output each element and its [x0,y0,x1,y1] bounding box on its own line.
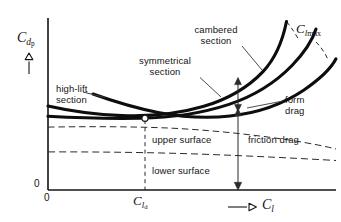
y-axis-origin-label: 0 [34,178,40,189]
cambered-section-label: cambered section [186,24,246,46]
symmetrical-label-line1: symmetrical [139,55,191,66]
x-axis-tick-label-cl-design: Cld [133,193,148,209]
lower-surface-curve [48,152,336,161]
profile-drag-diagram: Cdp 0 0 Cl Cld Clmax high-lift section s… [0,0,341,222]
x-axis-origin-label: 0 [44,192,50,203]
x-axis-label-base: C [262,197,271,212]
x-axis-label: Cl [262,197,274,213]
x-axis-label-sub: l [271,204,274,214]
form-drag-label-line1: form [285,94,304,105]
cl-design-sub2: d [144,203,147,210]
cl-max-envelope-right [316,42,328,59]
form-drag-label-line2: drag [285,105,304,116]
y-axis-label: Cdp [17,30,35,46]
lower-surface-label: lower surface [152,165,210,176]
symmetrical-section-label: symmetrical section [131,55,199,77]
high-lift-label-line2: section [56,94,87,105]
cambered-leader [242,46,262,70]
y-axis-arrow-icon [25,53,33,74]
cambered-label-line1: cambered [194,24,237,35]
cl-max-label: Clmax [296,21,321,37]
cl-max-base: C [296,21,305,36]
high-lift-label-line1: high-lift [56,83,88,94]
y-axis-label-base: C [17,30,26,45]
design-point-marker [142,115,148,121]
cambered-label-line2: section [201,35,232,46]
form-drag-label: form drag [285,94,304,116]
symmetrical-leader [200,78,221,98]
y-axis-label-sub2: p [31,40,35,48]
upper-surface-label: upper surface [152,134,211,145]
cl-max-sub2: max [307,29,321,38]
x-axis-arrow-icon [228,203,256,210]
friction-drag-label: friction drag [248,134,299,145]
high-lift-section-label: high-lift section [56,83,88,105]
symmetrical-label-line2: section [150,66,181,77]
friction-drag-measure-arrow [234,109,241,191]
cl-design-base: C [133,193,142,208]
